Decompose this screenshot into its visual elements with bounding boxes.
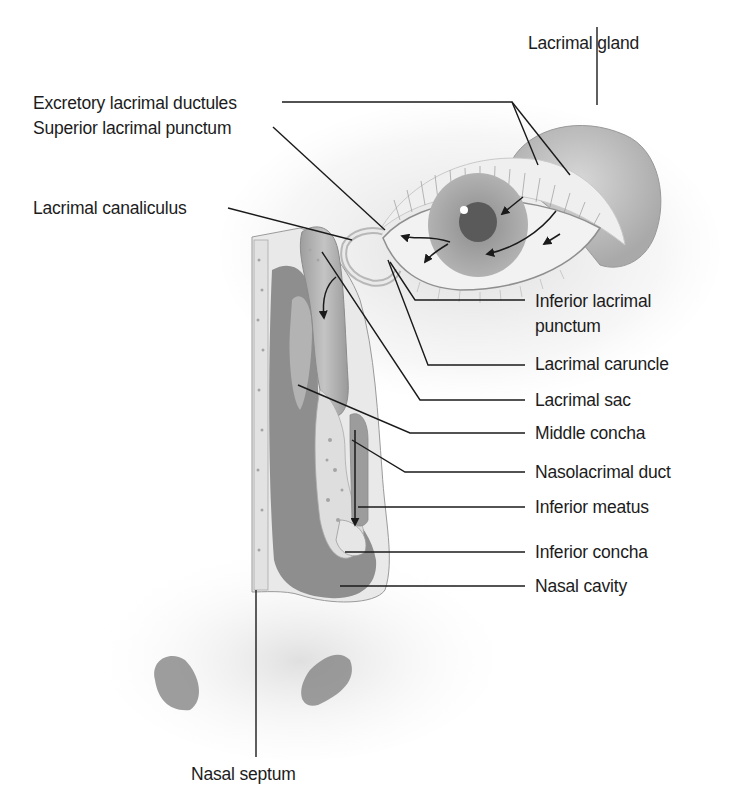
label-inferior-lacrimal-punctum: Inferior lacrimal punctum [535, 291, 651, 336]
nasolacrimal-duct-shape [350, 414, 368, 526]
label-lacrimal-sac: Lacrimal sac [535, 390, 631, 410]
label-superior-lacrimal-punctum: Superior lacrimal punctum [33, 118, 231, 138]
label-inferior-concha: Inferior concha [535, 542, 648, 562]
label-inferior-lacrimal-punctum-line1: Inferior lacrimal [535, 291, 651, 311]
label-nasolacrimal-duct: Nasolacrimal duct [535, 462, 671, 482]
label-nasal-cavity: Nasal cavity [535, 576, 627, 596]
label-inferior-meatus: Inferior meatus [535, 497, 649, 517]
label-excretory-lacrimal-ductules: Excretory lacrimal ductules [33, 93, 237, 113]
label-nasal-septum: Nasal septum [191, 764, 296, 784]
label-lacrimal-gland: Lacrimal gland [528, 33, 639, 53]
label-middle-concha: Middle concha [535, 423, 645, 443]
label-inferior-lacrimal-punctum-line2: punctum [535, 316, 651, 336]
nasal-septum-bone [254, 240, 268, 590]
eye-highlight [460, 206, 468, 214]
label-lacrimal-canaliculus: Lacrimal canaliculus [33, 198, 187, 218]
label-lacrimal-caruncle: Lacrimal caruncle [535, 354, 669, 374]
